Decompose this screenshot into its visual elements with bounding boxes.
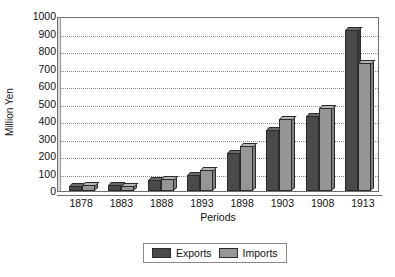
x-tick-label: 1898 bbox=[230, 197, 253, 209]
y-tick-label: 900 bbox=[38, 29, 56, 39]
bar-face bbox=[240, 146, 253, 191]
bar-exports-1903 bbox=[266, 130, 279, 191]
y-tick-label: 600 bbox=[38, 81, 56, 91]
bar-group bbox=[345, 18, 371, 191]
legend-swatch-exports bbox=[152, 248, 171, 258]
x-tick-label: 1893 bbox=[190, 197, 213, 209]
bar-face bbox=[306, 116, 319, 191]
chart-figure: Million Yen 0100200300400500600700800900… bbox=[0, 0, 395, 277]
y-tick-label: 300 bbox=[38, 134, 56, 144]
bar-face bbox=[69, 186, 82, 191]
bar-side bbox=[332, 105, 335, 190]
legend-entry-imports: Imports bbox=[219, 247, 278, 259]
y-axis-title: Million Yen bbox=[2, 62, 16, 162]
x-tick-label: 1913 bbox=[351, 197, 374, 209]
bar-face bbox=[108, 185, 121, 191]
bar-group bbox=[266, 18, 292, 191]
bar-top-cap bbox=[319, 105, 336, 108]
x-tick-label: 1888 bbox=[150, 197, 173, 209]
bar-face bbox=[187, 175, 200, 191]
x-tick-label: 1878 bbox=[69, 197, 92, 209]
bar-side bbox=[292, 117, 295, 191]
bar-face bbox=[121, 186, 134, 191]
bar-face bbox=[148, 180, 161, 191]
bar-face bbox=[358, 63, 371, 191]
bar-side bbox=[371, 61, 374, 191]
bar-exports-1893 bbox=[187, 175, 200, 191]
bar-imports-1903 bbox=[279, 119, 292, 191]
bar-imports-1883 bbox=[121, 186, 134, 191]
x-tick-label: 1903 bbox=[271, 197, 294, 209]
bar-imports-1893 bbox=[200, 170, 213, 191]
x-axis-title: Periods bbox=[57, 211, 379, 223]
x-tick-label: 1883 bbox=[110, 197, 133, 209]
bar-group bbox=[148, 18, 174, 191]
legend-label-exports: Exports bbox=[176, 247, 212, 259]
bar-group bbox=[227, 18, 253, 191]
bar-top-cap bbox=[82, 182, 99, 185]
y-tick-label: 200 bbox=[38, 151, 56, 161]
bar-imports-1913 bbox=[358, 63, 371, 191]
bar-imports-1898 bbox=[240, 146, 253, 191]
y-tick-label: 100 bbox=[38, 169, 56, 179]
bar-imports-1908 bbox=[319, 108, 332, 191]
bar-imports-1878 bbox=[82, 185, 95, 191]
bar-side bbox=[253, 144, 256, 191]
bar-top-cap bbox=[122, 183, 139, 186]
bar-face bbox=[345, 30, 358, 191]
bar-group bbox=[306, 18, 332, 191]
bar-exports-1888 bbox=[148, 180, 161, 191]
chart-legend: Exports Imports bbox=[143, 243, 287, 263]
bar-side bbox=[213, 168, 216, 191]
y-tick-label: 400 bbox=[38, 116, 56, 126]
bar-imports-1888 bbox=[161, 179, 174, 191]
bar-group bbox=[69, 18, 95, 191]
legend-swatch-imports bbox=[219, 248, 238, 258]
bar-exports-1898 bbox=[227, 153, 240, 191]
bar-exports-1908 bbox=[306, 116, 319, 191]
legend-entry-exports: Exports bbox=[152, 247, 212, 259]
bar-face bbox=[319, 108, 332, 191]
bar-exports-1883 bbox=[108, 185, 121, 191]
y-tick-label: 700 bbox=[38, 64, 56, 74]
bar-group bbox=[187, 18, 213, 191]
bar-face bbox=[266, 130, 279, 191]
y-tick-label: 500 bbox=[38, 99, 56, 109]
x-tick-label: 1908 bbox=[311, 197, 334, 209]
bar-face bbox=[227, 153, 240, 191]
bar-face bbox=[279, 119, 292, 191]
y-axis-tick-labels: 01002003004005006007008009001000 bbox=[16, 0, 56, 277]
bar-exports-1878 bbox=[69, 186, 82, 191]
y-tick-label: 1000 bbox=[33, 11, 56, 21]
bar-groups bbox=[62, 18, 378, 191]
bar-group bbox=[108, 18, 134, 191]
plot-floor bbox=[57, 192, 382, 196]
bar-face bbox=[161, 179, 174, 191]
bar-face bbox=[200, 170, 213, 191]
bar-exports-1913 bbox=[345, 30, 358, 191]
x-axis-tick-labels: 18781883188818931898190319081913 bbox=[61, 197, 383, 211]
legend-label-imports: Imports bbox=[243, 247, 278, 259]
bar-face bbox=[82, 185, 95, 191]
y-tick-label: 800 bbox=[38, 46, 56, 56]
y-tick-label: 0 bbox=[50, 186, 56, 196]
plot-area bbox=[57, 17, 379, 192]
